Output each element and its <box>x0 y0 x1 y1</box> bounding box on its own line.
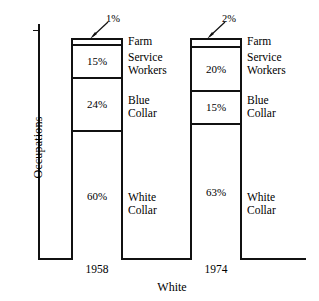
segment-value: 60% <box>87 191 107 202</box>
label-1974-white-line1: White <box>247 192 275 204</box>
label-1958-blue-line1: Blue <box>128 95 150 107</box>
segment-1958-service-workers[interactable]: 15% <box>73 44 121 77</box>
callout-arrow-icon <box>203 20 227 40</box>
bar-1958[interactable]: 1% 15% 24% 60% <box>71 38 123 258</box>
label-1974-blue-line1: Blue <box>247 95 269 107</box>
label-1974-white-line2: Collar <box>247 205 276 217</box>
y-axis-title: Occupations <box>31 78 46 218</box>
x-tick-label-1958: 1958 <box>62 263 132 275</box>
label-1974-blue-line2: Collar <box>247 108 276 120</box>
label-1958-service-line2: Workers <box>128 65 167 77</box>
stacked-bar-chart: Occupations 1% 15% 24% 60% Farm Service … <box>0 0 319 301</box>
segment-value: 15% <box>87 56 107 67</box>
label-1958-service-line1: Service <box>128 52 162 64</box>
segment-value: 15% <box>206 102 226 113</box>
y-axis-tick <box>33 30 39 31</box>
segment-1974-blue-collar[interactable]: 15% <box>192 90 240 123</box>
label-1958-farm: Farm <box>128 36 152 48</box>
label-1958-white-line1: White <box>128 192 156 204</box>
callout-arrow-icon <box>86 20 110 40</box>
label-1958-white-line2: Collar <box>128 205 157 217</box>
segment-1958-white-collar[interactable]: 60% <box>73 130 121 260</box>
segment-value: 24% <box>87 99 107 110</box>
label-1974-service-line1: Service <box>247 52 281 64</box>
segment-1974-white-collar[interactable]: 63% <box>192 123 240 260</box>
x-axis-title: White <box>38 280 306 295</box>
label-1974-service-line2: Workers <box>247 65 286 77</box>
segment-value: 63% <box>206 187 226 198</box>
label-1974-farm: Farm <box>247 36 271 48</box>
segment-1958-blue-collar[interactable]: 24% <box>73 77 121 130</box>
label-1958-blue-line2: Collar <box>128 108 157 120</box>
segment-1974-service-workers[interactable]: 20% <box>192 46 240 90</box>
x-tick-label-1974: 1974 <box>181 263 251 275</box>
bar-1974[interactable]: 2% 20% 15% 63% <box>190 38 242 258</box>
segment-value: 20% <box>206 64 226 75</box>
